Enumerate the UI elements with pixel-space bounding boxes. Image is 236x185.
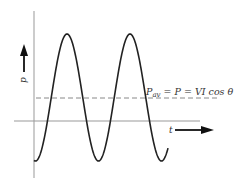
x-axis-label: t bbox=[169, 125, 173, 135]
formula-rhs: = P = VI cos θ bbox=[161, 86, 234, 97]
power-diagram: p t Pav = P = VI cos θ bbox=[0, 0, 236, 185]
y-axis-label: p bbox=[18, 77, 28, 83]
p-axis-arrow-icon bbox=[20, 44, 28, 72]
average-power-formula: Pav = P = VI cos θ bbox=[145, 86, 234, 99]
formula-subscript: av bbox=[152, 91, 160, 99]
t-axis-arrow-icon bbox=[175, 126, 214, 134]
